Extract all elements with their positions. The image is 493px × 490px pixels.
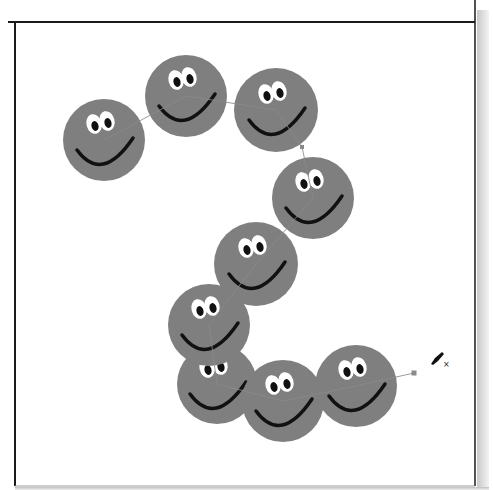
smiley-faces-group[interactable] (63, 55, 397, 442)
drawing-canvas[interactable]: × (0, 0, 493, 490)
delete-badge-icon: × (443, 360, 450, 369)
end-anchor-point[interactable] (412, 371, 417, 376)
pen-cursor-icon: × (431, 352, 450, 369)
anchor-point[interactable] (300, 145, 304, 149)
artboard[interactable]: × (0, 0, 493, 490)
